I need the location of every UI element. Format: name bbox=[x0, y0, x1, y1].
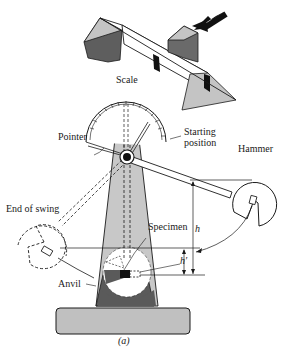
label-pointer: Pointer bbox=[58, 131, 88, 142]
label-specimen: Specimen bbox=[148, 221, 187, 232]
label-starting: Starting bbox=[184, 126, 216, 137]
figure-caption: (a) bbox=[118, 335, 130, 347]
label-scale: Scale bbox=[116, 74, 138, 85]
specimen bbox=[120, 270, 130, 278]
label-h: h bbox=[195, 223, 200, 234]
label-anvil: Anvil bbox=[58, 278, 81, 289]
label-h-prime: h′ bbox=[180, 255, 188, 266]
hammer-start bbox=[128, 156, 277, 226]
base bbox=[56, 308, 190, 334]
charpy-impact-diagram: Scale Pointer Starting position Hammer E… bbox=[0, 0, 292, 347]
label-end-of-swing: End of swing bbox=[6, 203, 59, 214]
label-hammer: Hammer bbox=[238, 143, 274, 154]
label-position: position bbox=[184, 137, 216, 148]
specimen-inset bbox=[84, 12, 236, 110]
